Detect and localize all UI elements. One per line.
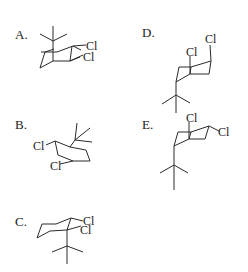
atom-cl-b1: Cl: [33, 140, 44, 152]
atom-cl-a2: Cl: [83, 51, 94, 63]
structure-e: [160, 122, 219, 190]
atom-cl-d2: Cl: [186, 46, 197, 58]
atom-cl-e2: Cl: [218, 126, 229, 138]
atom-cl-b2: Cl: [50, 160, 61, 172]
atom-cl-e1: Cl: [186, 112, 197, 124]
atom-cl-d1: Cl: [205, 33, 216, 45]
structure-b: [46, 123, 92, 164]
atom-cl-c2: Cl: [80, 224, 91, 236]
structure-a: [40, 26, 86, 68]
structure-c: [37, 218, 83, 264]
